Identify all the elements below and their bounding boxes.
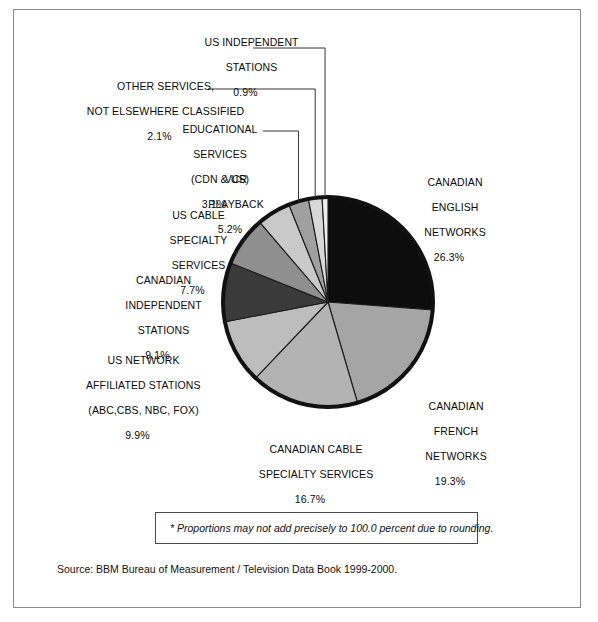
callout-percent: 9.9% xyxy=(55,429,220,442)
callout-line-3: NETWORKS xyxy=(425,450,486,462)
callout-percent: 2.1% xyxy=(62,130,257,143)
chart-page: CANADIAN ENGLISH NETWORKS 26.3% CANADIAN… xyxy=(0,0,598,622)
callout-percent: 0.9% xyxy=(163,86,328,99)
callout-line-2: FRENCH xyxy=(434,425,478,437)
callout-line-3: NETWORKS xyxy=(424,226,485,238)
callout-line-3: STATIONS xyxy=(138,324,190,336)
callout-line-3: (CDN & US) xyxy=(191,173,249,185)
callout-percent: 7.7% xyxy=(140,284,245,297)
callout-line-1: US INDEPENDENT xyxy=(204,36,298,48)
callout-percent: 26.3% xyxy=(389,251,509,264)
source-line: Source: BBM Bureau of Measurement / Tele… xyxy=(57,563,397,575)
callout-canadian-english-networks: CANADIAN ENGLISH NETWORKS 26.3% xyxy=(389,163,509,289)
callout-percent: 3.1% xyxy=(155,198,273,211)
callout-line-1: CANADIAN xyxy=(428,176,483,188)
callout-line-2: STATIONS xyxy=(226,61,278,73)
callout-line-2: SPECIALTY SERVICES xyxy=(259,468,373,480)
footnote-text: * Proportions may not add precisely to 1… xyxy=(156,522,493,534)
callout-line-3: (ABC,CBS, NBC, FOX) xyxy=(88,404,198,416)
callout-line-3: SERVICES xyxy=(172,259,226,271)
callout-percent: 19.3% xyxy=(390,475,510,488)
callout-canadian-french-networks: CANADIAN FRENCH NETWORKS 19.3% xyxy=(390,387,510,513)
callout-line-1: CANADIAN xyxy=(429,400,484,412)
callout-us-independent-stations: US INDEPENDENT STATIONS 0.9% xyxy=(163,23,328,124)
footnote-box: * Proportions may not add precisely to 1… xyxy=(155,512,478,544)
callout-percent: 16.7% xyxy=(215,493,405,506)
callout-line-1: CANADIAN CABLE xyxy=(270,443,363,455)
callout-line-2: ENGLISH xyxy=(432,201,479,213)
callout-percent: 9.1% xyxy=(95,349,220,362)
